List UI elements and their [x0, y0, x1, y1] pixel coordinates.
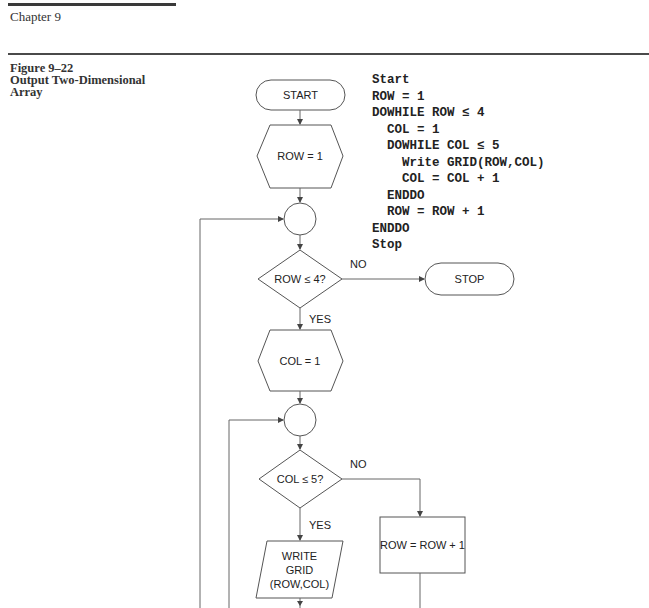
init-col-label: COL = 1: [280, 355, 321, 367]
row-increment-label: ROW = ROW + 1: [380, 539, 465, 551]
arrow-col-no-to-row-increment: [342, 479, 420, 516]
init-col-preparation: COL = 1: [258, 330, 343, 391]
write-label-line2: GRID: [286, 564, 314, 576]
init-row-label: ROW = 1: [277, 150, 323, 162]
col-yes-label: YES: [309, 519, 331, 531]
row-test-decision: ROW ≤ 4?: [258, 250, 342, 308]
arrowhead-write-down: [297, 601, 303, 606]
start-label: START: [283, 89, 318, 101]
col-no-label: NO: [350, 458, 367, 470]
stop-terminator: STOP: [425, 263, 514, 295]
write-grid-io: WRITE GRID (ROW,COL): [256, 541, 343, 598]
row-test-label: ROW ≤ 4?: [274, 273, 325, 285]
write-label-line3: (ROW,COL): [270, 578, 329, 590]
col-test-decision: COL ≤ 5?: [259, 450, 342, 508]
stop-label: STOP: [455, 273, 485, 285]
row-yes-label: YES: [309, 313, 331, 325]
col-test-label: COL ≤ 5?: [277, 473, 324, 485]
init-row-preparation: ROW = 1: [257, 125, 343, 188]
start-terminator: START: [256, 80, 345, 110]
flowchart: START ROW = 1 ROW ≤ 4? NO STOP YES COL =…: [0, 0, 649, 608]
write-label-line1: WRITE: [282, 550, 317, 562]
inner-loop-connector: [284, 404, 316, 436]
row-increment-process: ROW = ROW + 1: [380, 517, 465, 573]
outer-loop-connector: [284, 203, 316, 235]
row-no-label: NO: [350, 258, 367, 270]
